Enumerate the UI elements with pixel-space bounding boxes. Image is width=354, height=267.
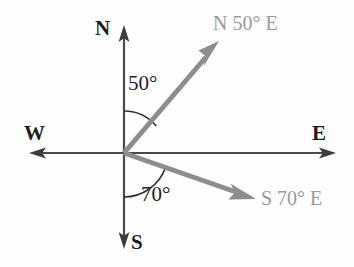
compass-bearing-diagram: N S W E 50° 70° N 50° E S 70° E (0, 0, 354, 267)
cardinal-label-west: W (24, 123, 45, 144)
angle-label-50-degrees: 50° (128, 73, 157, 94)
bearing-label-s70e: S 70° E (261, 188, 322, 208)
angle-label-70-degrees: 70° (141, 184, 170, 205)
bearing-label-n50e: N 50° E (213, 13, 278, 33)
axis-group (29, 25, 336, 249)
cardinal-label-east: E (312, 123, 326, 144)
cardinal-label-south: S (131, 232, 143, 253)
diagram-canvas (0, 0, 354, 267)
cardinal-label-north: N (95, 18, 110, 39)
bearing-ray-group (124, 41, 256, 200)
